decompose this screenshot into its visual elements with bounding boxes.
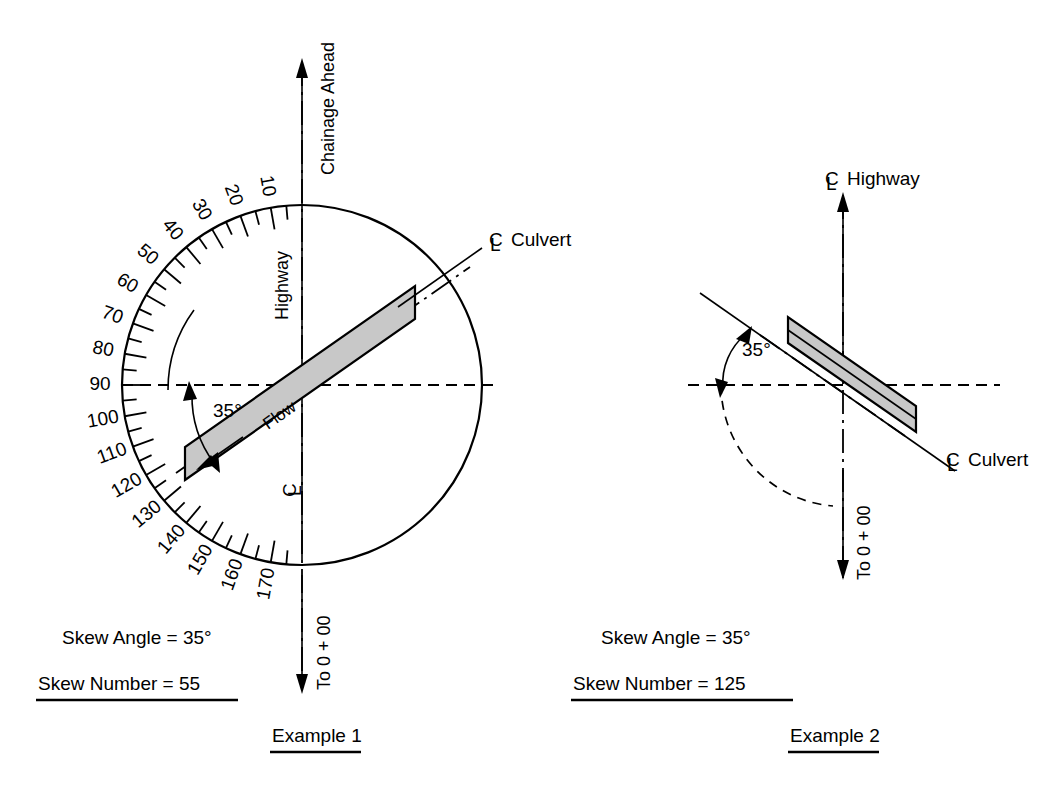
- culvert-leader-ex1: [398, 248, 482, 307]
- skew-number-arc-ex2: [721, 385, 833, 506]
- centerline-symbol-l-ex1: L: [284, 485, 305, 496]
- highway-label-ex1: Highway: [272, 251, 292, 320]
- protractor-tick: [240, 216, 248, 237]
- protractor-tick: [128, 428, 142, 432]
- to-zero-label-ex2: To 0 + 00: [854, 505, 874, 580]
- protractor-tick-label: 60: [113, 268, 142, 297]
- example-2-group: 35° C L Highway C L Culvert To 0 + 00 Sk…: [571, 168, 1029, 752]
- protractor-tick: [128, 338, 142, 342]
- protractor-tick-label: 80: [91, 336, 115, 360]
- protractor-tick-label: 100: [85, 406, 120, 432]
- protractor-tick: [164, 487, 181, 501]
- protractor-tick-label: 90: [89, 373, 110, 394]
- protractor-tick: [240, 533, 248, 554]
- highway-label-ex2: Highway: [847, 168, 920, 189]
- protractor-tick: [146, 464, 165, 475]
- skew-angle-value-ex2: 35°: [742, 339, 771, 360]
- protractor-tick: [212, 229, 223, 248]
- protractor-tick: [271, 541, 275, 563]
- protractor-tick: [155, 282, 166, 290]
- protractor-tick-label: 130: [127, 495, 165, 531]
- protractor-tick: [133, 439, 154, 447]
- protractor-tick-label: 170: [252, 566, 278, 601]
- protractor-tick: [186, 506, 200, 523]
- protractor-tick-label: 50: [133, 239, 163, 269]
- centerline-symbol-ex1: C L: [279, 483, 305, 497]
- protractor-tick: [186, 247, 200, 264]
- culvert-label-ex1: Culvert: [511, 229, 572, 250]
- culvert-symbol-l-ex2: L: [947, 454, 958, 475]
- culvert-band: [185, 286, 415, 480]
- protractor-tick-label: 30: [188, 195, 217, 224]
- protractor-tick: [212, 522, 223, 541]
- skew-number-caption-ex2: Skew Number = 125: [573, 673, 746, 694]
- culvert-band-centerline-ex2: [788, 330, 916, 419]
- skew-angle-value-ex1: 35°: [213, 400, 242, 421]
- protractor-tick: [286, 550, 287, 564]
- protractor-tick: [199, 238, 207, 249]
- protractor-tick-label: 110: [94, 438, 130, 468]
- protractor-tick-labels: 1020304050607080901001101201301401501601…: [85, 174, 280, 602]
- protractor-tick: [164, 269, 181, 283]
- protractor-tick-label: 140: [153, 520, 189, 558]
- protractor-tick: [139, 455, 152, 461]
- skew-angle-caption-ex2: Skew Angle = 35°: [601, 627, 751, 648]
- protractor-tick-label: 120: [107, 468, 145, 502]
- protractor-tick: [133, 323, 154, 331]
- protractor-tick: [123, 369, 137, 370]
- highway-cl-symbol-ex2: C L: [825, 168, 839, 194]
- protractor-tick-label: 20: [221, 181, 248, 208]
- to-zero-arrow: [296, 575, 308, 694]
- skew-number-caption-ex1: Skew Number = 55: [38, 673, 200, 694]
- protractor-tick-label: 150: [183, 540, 217, 578]
- protractor-tick-label: 160: [216, 556, 247, 593]
- protractor-tick: [139, 309, 152, 315]
- protractor-tick-label: 10: [256, 174, 280, 198]
- highway-symbol-l-ex2: L: [826, 173, 837, 194]
- culvert-cl-symbol-ex1: C L: [489, 229, 503, 255]
- protractor-tick: [226, 222, 232, 235]
- protractor-tick: [286, 206, 287, 220]
- protractor-tick: [255, 545, 259, 559]
- skew-angle-caption-ex1: Skew Angle = 35°: [62, 627, 212, 648]
- figure-canvas: 1020304050607080901001101201301401501601…: [0, 0, 1057, 791]
- protractor-tick: [123, 399, 137, 400]
- protractor-tick: [155, 480, 166, 488]
- protractor-tick: [146, 295, 165, 306]
- arc-arrowhead-top: [183, 381, 197, 401]
- skew-angle-arc-ex1: [168, 310, 194, 390]
- protractor-tick: [125, 412, 147, 416]
- chainage-ahead-label: Chainage Ahead: [318, 42, 338, 175]
- culvert-label-ex2: Culvert: [968, 449, 1029, 470]
- protractor-tick: [175, 258, 185, 268]
- protractor-tick: [125, 354, 147, 358]
- to-zero-label-ex1: To 0 + 00: [314, 615, 334, 690]
- protractor-tick: [226, 535, 232, 548]
- protractor-tick: [175, 502, 185, 512]
- example-1-group: 1020304050607080901001101201301401501601…: [36, 42, 572, 752]
- protractor-tick-label: 40: [158, 214, 188, 244]
- culvert-cl-symbol-ex2: C L: [946, 449, 960, 475]
- protractor-tick: [199, 521, 207, 532]
- to-zero-arrow-ex2: [837, 470, 849, 580]
- skew-angle-diagram: 1020304050607080901001101201301401501601…: [0, 0, 1057, 791]
- example-caption-1: Example 1: [272, 725, 362, 746]
- protractor-tick: [255, 211, 259, 225]
- culvert-symbol-l-ex1: L: [490, 234, 501, 255]
- protractor-tick-label: 70: [99, 301, 126, 328]
- protractor-tick: [271, 208, 275, 230]
- example-caption-2: Example 2: [790, 725, 880, 746]
